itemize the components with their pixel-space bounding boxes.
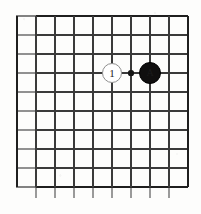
- go-board-diagram: 1 A: [0, 0, 201, 214]
- board-grid: [0, 0, 201, 214]
- black-stone-marked-a[interactable]: A: [139, 62, 161, 84]
- white-stone-move-number: 1: [109, 68, 115, 79]
- star-point-icon: [128, 70, 133, 75]
- black-stone-mark-label: A: [146, 68, 153, 78]
- white-stone-move-1[interactable]: 1: [102, 63, 122, 83]
